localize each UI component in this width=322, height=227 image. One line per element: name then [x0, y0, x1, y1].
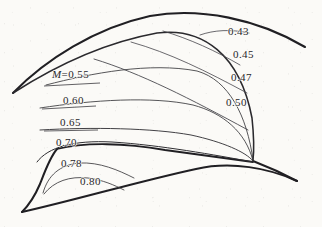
contour-label-m-070: 0.70 — [56, 137, 77, 148]
contour-label-m-060: 0.60 — [63, 95, 84, 106]
airfoil-inner-upper-outline — [13, 32, 254, 160]
contour-label-m-045: 0.45 — [233, 49, 254, 60]
airfoil-upper-surface-curve — [13, 13, 305, 93]
mach-symbol: M — [52, 68, 62, 80]
airfoil-mach-contour-diagram — [0, 0, 322, 227]
label-leader-065 — [44, 130, 98, 131]
trailing-edge-convergence — [253, 161, 297, 181]
contour-value-055: 0.55 — [68, 68, 89, 80]
contour-label-m-050: 0.50 — [226, 97, 247, 108]
contour-line-m-047 — [131, 42, 247, 93]
contour-label-m-043: 0.43 — [228, 26, 249, 37]
airfoil-lower-surface-curve — [22, 166, 297, 212]
contour-label-m-078: 0.78 — [61, 158, 82, 169]
figure-container: M=0.55 0.60 0.65 0.70 0.78 0.80 0.43 0.4… — [0, 0, 322, 227]
contour-label-m-080: 0.80 — [80, 176, 101, 187]
contour-label-m-065: 0.65 — [60, 117, 81, 128]
contour-label-m-047: 0.47 — [231, 72, 252, 83]
contour-label-m-055: M=0.55 — [52, 69, 89, 80]
supersonic-zone-boundary-curve — [57, 144, 253, 162]
